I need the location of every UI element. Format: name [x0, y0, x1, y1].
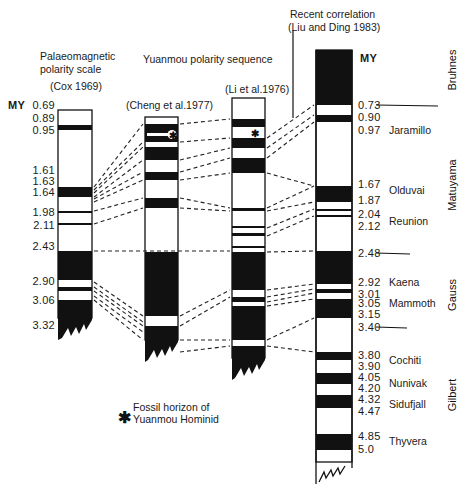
liu-tick-label: 0.97	[358, 124, 381, 136]
liu-tick-label: 3.40	[358, 321, 381, 333]
cox-tick-label: 1.64	[32, 186, 55, 198]
palaeomagnetic-title-line2: polarity scale	[40, 63, 101, 76]
liu-tick-label: 1.67	[358, 178, 381, 190]
fossil-star-icon: ✱	[251, 128, 260, 139]
event-label: Sidufjall	[389, 398, 426, 410]
cox-tick-label: 0.89	[32, 112, 55, 124]
legend-line2: Yuanmou Hominid	[133, 413, 219, 425]
event-label: Reunion	[389, 215, 428, 227]
event-label: Nunivak	[389, 377, 427, 389]
cox-tick-label: 2.43	[32, 240, 55, 252]
liu-tick-label: 4.85	[358, 430, 381, 442]
epoch-label: Matuyama	[446, 155, 458, 215]
cheng-citation: (Cheng et al.1977)	[126, 99, 213, 112]
cox-tick-label: 0.69	[32, 99, 55, 111]
fossil-star-icon: ✱	[169, 130, 178, 141]
unit-label-right: MY	[360, 52, 377, 64]
liu-tick-label: 5.0	[358, 443, 374, 455]
cox-tick-label: 0.95	[32, 124, 55, 136]
palaeomagnetic-title-line1: Palaeomagnetic	[40, 50, 115, 63]
epoch-label: Gauss	[446, 265, 458, 325]
event-label: Thyvera	[389, 435, 427, 447]
liu-tick-label: 3.15	[358, 308, 381, 320]
liu-tick-label: 0.90	[358, 111, 381, 123]
liu-tick-label: 2.12	[358, 220, 381, 232]
recent-title-line2: (Liu and Ding 1983)	[288, 21, 380, 34]
epoch-label: Bruhnes	[446, 40, 458, 100]
liu-tick-label: 2.04	[358, 208, 381, 220]
recent-title-line1: Recent correlation	[290, 8, 375, 21]
event-label: Olduvai	[389, 184, 425, 196]
event-label: Jaramillo	[389, 124, 431, 136]
legend-line1: Fossil horizon of	[133, 401, 209, 413]
cox-tick-label: 1.98	[32, 206, 55, 218]
liu-tick-label: 4.47	[358, 405, 381, 417]
unit-label-left: MY	[8, 99, 25, 111]
liu-tick-label: 2.92	[358, 276, 381, 288]
cox-tick-label: 3.32	[32, 319, 55, 331]
cox-tick-label: 3.06	[32, 294, 55, 306]
yuanmou-title: Yuanmou polarity sequence	[143, 53, 273, 66]
event-label: Mammoth	[389, 297, 436, 309]
liu-tick-label: 1.87	[358, 194, 381, 206]
liu-tick-label: 4.32	[358, 393, 381, 405]
cox-tick-label: 2.90	[32, 275, 55, 287]
liu-tick-label: 2.48	[358, 247, 381, 259]
epoch-label: Gilbert	[446, 365, 458, 425]
fossil-star-icon: ✱	[118, 408, 131, 427]
event-label: Kaena	[389, 276, 419, 288]
li-citation: (Li et al.1976)	[225, 83, 289, 96]
liu-tick-label: 0.73	[358, 99, 381, 111]
event-label: Cochiti	[389, 354, 421, 366]
cox-citation: (Cox 1969)	[50, 80, 102, 93]
cox-tick-label: 2.11	[33, 219, 55, 231]
